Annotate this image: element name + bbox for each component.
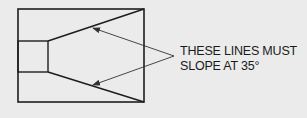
callout-line-2: SLOPE AT 35° — [180, 59, 297, 74]
inner-box — [18, 41, 48, 72]
callout-text: THESE LINES MUST SLOPE AT 35° — [180, 44, 297, 74]
lower-leader-arrow — [93, 56, 174, 85]
upper-slope-line — [48, 9, 144, 41]
upper-leader-arrow — [93, 28, 174, 56]
outer-frame — [18, 9, 144, 102]
callout-line-1: THESE LINES MUST — [180, 44, 297, 59]
lower-slope-line — [48, 72, 144, 102]
